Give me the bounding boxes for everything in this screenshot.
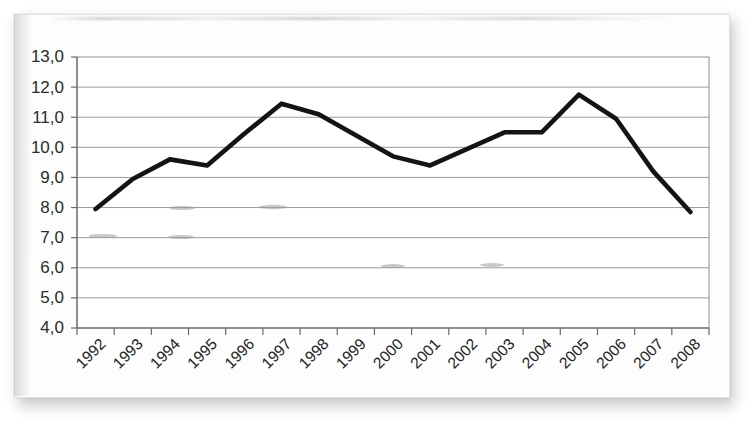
x-axis-tick-label: 1994 bbox=[147, 335, 184, 372]
y-axis-tick-label: 5,0 bbox=[40, 288, 64, 307]
y-axis-tick-label: 11,0 bbox=[32, 108, 64, 127]
plot-background bbox=[77, 57, 709, 328]
y-axis-tick-label: 12,0 bbox=[31, 78, 64, 97]
y-axis-tick-label: 13,0 bbox=[31, 47, 64, 66]
x-axis-tick-label: 2001 bbox=[407, 335, 443, 371]
y-axis-tick-label: 9,0 bbox=[40, 168, 64, 187]
y-axis-tick-label: 7,0 bbox=[40, 228, 64, 247]
x-axis-tick-label: 1992 bbox=[72, 335, 108, 371]
x-axis-tick-label: 2008 bbox=[667, 335, 703, 371]
x-axis-tick-label: 2005 bbox=[556, 335, 592, 371]
x-axis-tick-label: 1996 bbox=[221, 335, 257, 371]
y-axis-tick-labels: 4,05,06,07,08,09,010,011,012,013,0 bbox=[31, 47, 64, 337]
x-axis-tick-label: 1998 bbox=[295, 335, 331, 371]
x-axis-tick-label: 2004 bbox=[518, 335, 555, 372]
x-axis-tick-label: 2000 bbox=[370, 335, 407, 372]
y-axis-tick-label: 6,0 bbox=[40, 258, 64, 277]
y-axis-tick-label: 10,0 bbox=[31, 138, 64, 157]
scanned-figure: 4,05,06,07,08,09,010,011,012,013,0 19921… bbox=[0, 0, 754, 434]
x-axis-ticks bbox=[77, 328, 709, 335]
x-axis-tick-label: 2003 bbox=[481, 335, 517, 371]
x-axis-tick-labels: 1992199319941995199619971998199920002001… bbox=[72, 335, 703, 372]
chart-canvas: 4,05,06,07,08,09,010,011,012,013,0 19921… bbox=[0, 0, 754, 434]
x-axis-tick-label: 1995 bbox=[184, 335, 220, 371]
y-axis-tick-label: 4,0 bbox=[40, 318, 64, 337]
y-axis-ticks bbox=[71, 57, 77, 328]
x-axis-tick-label: 2006 bbox=[593, 335, 629, 371]
x-axis-tick-label: 1993 bbox=[109, 335, 145, 371]
x-axis-tick-label: 1997 bbox=[258, 335, 294, 371]
line-chart: 4,05,06,07,08,09,010,011,012,013,0 19921… bbox=[0, 0, 754, 434]
x-axis-tick-label: 1999 bbox=[333, 335, 369, 371]
x-axis-tick-label: 2007 bbox=[630, 335, 666, 371]
x-axis-tick-label: 2002 bbox=[444, 335, 480, 371]
y-axis-tick-label: 8,0 bbox=[40, 198, 64, 217]
